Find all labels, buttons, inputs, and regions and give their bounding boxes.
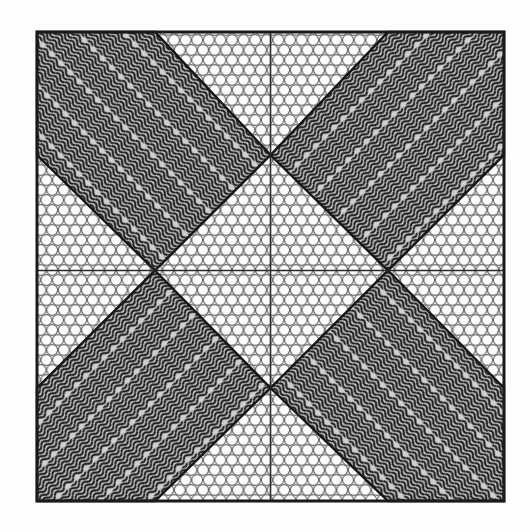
pattern-artboard <box>0 0 530 532</box>
pattern-svg <box>0 0 530 532</box>
artwork-canvas <box>0 0 530 532</box>
